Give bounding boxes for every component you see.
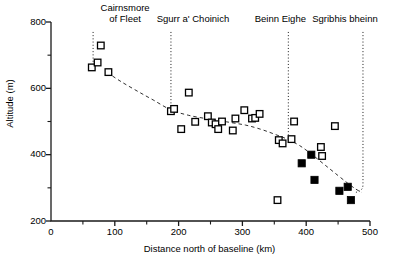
scatter-plot <box>0 0 419 262</box>
filled-square-marker <box>308 151 315 158</box>
open-square-marker <box>105 69 112 76</box>
x-tick-label: 200 <box>171 227 187 238</box>
x-tick-label: 400 <box>298 227 314 238</box>
open-square-marker <box>318 144 325 151</box>
open-square-marker <box>98 42 105 49</box>
open-square-marker <box>186 89 193 96</box>
open-square-marker <box>241 107 248 114</box>
chart-figure: 2004006008000100200300400500Cairnsmore o… <box>0 0 419 262</box>
y-tick-label: 800 <box>20 17 46 28</box>
filled-square-marker <box>347 197 354 204</box>
y-tick-label: 200 <box>20 216 46 227</box>
x-axis-label: Distance north of baseline (km) <box>0 243 419 254</box>
x-tick-label: 100 <box>107 227 123 238</box>
x-tick-label: 300 <box>234 227 250 238</box>
open-square-marker <box>232 115 239 122</box>
peak-annotation-label: Sgribhis bheinn <box>312 14 378 25</box>
peak-marker-lines <box>93 32 363 193</box>
y-tick-label: 400 <box>20 149 46 160</box>
open-square-marker <box>230 127 237 134</box>
open-square-marker <box>205 113 212 120</box>
filled-square-marker <box>311 176 318 183</box>
open-square-marker <box>288 136 295 143</box>
peak-annotation-label: Beinn Eighe <box>255 14 306 25</box>
filled-square-marker <box>298 160 305 167</box>
open-square-marker <box>171 106 178 113</box>
open-square-marker <box>279 140 286 147</box>
open-square-marker <box>319 153 326 160</box>
y-tick-label: 600 <box>20 83 46 94</box>
open-square-marker <box>256 111 263 118</box>
peak-annotation-label: Cairnsmore of Fleet <box>101 3 150 24</box>
open-square-marker <box>178 126 185 133</box>
open-square-marker <box>274 197 281 204</box>
open-square-marker <box>215 126 222 133</box>
open-square-marker <box>332 123 339 130</box>
data-points <box>89 42 355 204</box>
open-square-marker <box>94 59 101 66</box>
x-tick-label: 0 <box>48 227 53 238</box>
filled-square-marker <box>336 187 343 194</box>
y-axis-label: Altitude (m) <box>4 69 15 139</box>
filled-square-marker <box>344 183 351 190</box>
peak-annotation-label: Sgurr a' Choinich <box>157 14 230 25</box>
open-square-marker <box>219 118 226 125</box>
open-square-marker <box>192 119 199 126</box>
open-square-marker <box>291 118 298 125</box>
x-tick-label: 500 <box>362 227 378 238</box>
